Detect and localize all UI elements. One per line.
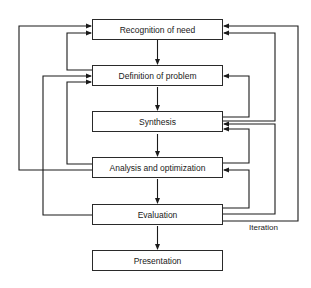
node-label: Analysis and optimization bbox=[110, 163, 206, 173]
node-label: Recognition of need bbox=[120, 25, 196, 35]
edge-analysis-synthesis bbox=[223, 129, 249, 163]
edge-synthesis-definition bbox=[223, 76, 249, 117]
edge-analysis-recognition bbox=[19, 26, 92, 170]
node-evaluation: Evaluation bbox=[92, 204, 223, 225]
iteration-annotation: Iteration bbox=[249, 223, 278, 232]
node-analysis-and-optimization: Analysis and optimization bbox=[92, 157, 223, 178]
node-synthesis: Synthesis bbox=[92, 111, 223, 132]
node-presentation: Presentation bbox=[92, 250, 223, 271]
edge-analysis-definition bbox=[67, 82, 92, 164]
edge-evaluation-analysis bbox=[223, 170, 249, 208]
flowchart-connectors bbox=[0, 0, 311, 288]
node-recognition-of-need: Recognition of need bbox=[92, 19, 223, 40]
node-label: Presentation bbox=[134, 256, 182, 266]
edge-definition-recognition bbox=[67, 33, 92, 70]
node-label: Evaluation bbox=[138, 210, 178, 220]
node-label: Synthesis bbox=[139, 117, 176, 127]
node-label: Definition of problem bbox=[119, 71, 197, 81]
node-definition-of-problem: Definition of problem bbox=[92, 65, 223, 86]
